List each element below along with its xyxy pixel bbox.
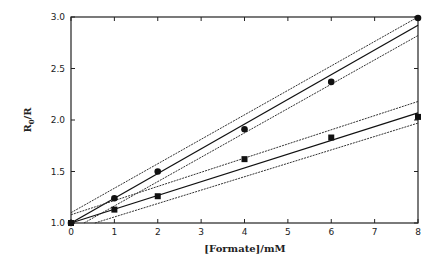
circle-marker	[415, 15, 422, 22]
chart: 0123456781.01.52.02.53.0 [Formate]/mM R0…	[0, 0, 441, 262]
x-tick-label: 4	[242, 227, 248, 237]
y-tick-label: 3.0	[51, 12, 66, 22]
circle-marker	[328, 79, 335, 86]
squares-ci-lower-line	[95, 123, 418, 223]
circles-ci-upper-line	[71, 17, 418, 213]
x-tick-label: 8	[415, 227, 421, 237]
x-tick-label: 0	[68, 227, 74, 237]
square-marker	[111, 207, 117, 213]
y-label-tail: /R	[22, 107, 33, 120]
x-tick-label: 1	[112, 227, 118, 237]
x-tick-label: 6	[328, 227, 334, 237]
circles-fit-line	[71, 25, 418, 223]
y-tick-label: 2.0	[51, 115, 66, 125]
x-tick-label: 5	[285, 227, 291, 237]
circle-marker	[154, 168, 161, 175]
fit-lines	[71, 17, 418, 223]
plot-frame	[71, 17, 418, 223]
circle-marker	[111, 195, 118, 202]
y-axis-label: R0/R	[22, 107, 36, 133]
x-tick-label: 3	[198, 227, 204, 237]
square-marker	[415, 114, 421, 120]
plot-border	[71, 17, 418, 223]
square-marker	[68, 220, 74, 226]
y-tick-label: 1.0	[51, 218, 66, 228]
square-marker	[242, 156, 248, 162]
x-axis-label: [Formate]/mM	[204, 243, 285, 254]
x-tick-label: 7	[372, 227, 378, 237]
circle-marker	[241, 126, 248, 133]
y-tick-label: 2.5	[51, 64, 65, 74]
square-marker	[155, 193, 161, 199]
square-marker	[328, 135, 334, 141]
y-tick-label: 1.5	[51, 167, 65, 177]
x-tick-label: 2	[155, 227, 161, 237]
